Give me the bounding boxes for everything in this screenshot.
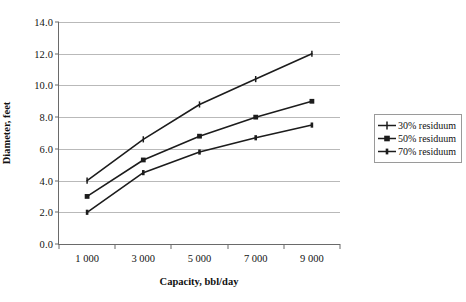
data-point — [85, 194, 90, 199]
x-tick-mark — [59, 244, 60, 249]
y-tick-label: 0.0 — [40, 239, 53, 250]
x-tick-label: 1 000 — [75, 253, 99, 264]
y-tick-label: 2.0 — [40, 207, 53, 218]
legend-label: 70% residuum — [398, 146, 456, 157]
x-tick-mark — [227, 244, 228, 249]
series-line-1 — [87, 54, 312, 181]
legend-item-30[interactable]: 30% residuum — [378, 119, 458, 132]
legend-label: 30% residuum — [398, 120, 456, 131]
x-tick-label: 7 000 — [244, 253, 268, 264]
y-tick-label: 6.0 — [40, 143, 53, 154]
y-axis-title: Diameter, feet — [1, 102, 12, 165]
y-tick-label: 10.0 — [34, 80, 53, 91]
data-point — [197, 134, 202, 139]
x-tick-mark — [171, 244, 172, 249]
legend-label: 50% residuum — [398, 133, 456, 144]
legend-item-50[interactable]: 50% residuum — [378, 132, 458, 145]
x-tick-mark — [340, 244, 341, 249]
x-axis-title: Capacity, bbl/day — [160, 276, 239, 287]
y-tick-label: 8.0 — [40, 112, 53, 123]
x-tick-label: 3 000 — [131, 253, 155, 264]
chart-legend: 30% residuum 50% residuum 70% residuum — [374, 114, 462, 163]
x-tick-label: 9 000 — [300, 253, 324, 264]
data-point — [141, 158, 146, 163]
y-tick-label: 12.0 — [34, 48, 53, 59]
legend-item-70[interactable]: 70% residuum — [378, 145, 458, 158]
series-line-2 — [87, 101, 312, 196]
legend-marker-cross-plus-icon — [378, 120, 396, 131]
data-series-layer — [59, 22, 340, 244]
legend-marker-square-icon — [378, 133, 396, 144]
legend-marker-dash-bar-icon — [378, 146, 396, 157]
x-tick-mark — [283, 244, 284, 249]
data-point — [253, 115, 258, 120]
figure-caption — [8, 294, 458, 302]
x-tick-mark — [115, 244, 116, 249]
y-tick-label: 4.0 — [40, 175, 53, 186]
x-tick-label: 5 000 — [188, 253, 212, 264]
plot-area: 14.0 12.0 10.0 8.0 6.0 4.0 2.0 0.0 1 000… — [58, 22, 340, 245]
chart-figure: Diameter, feet 14.0 12.0 10.0 8.0 6.0 4.… — [0, 0, 466, 302]
data-point — [310, 99, 315, 104]
y-tick-label: 14.0 — [34, 17, 53, 28]
